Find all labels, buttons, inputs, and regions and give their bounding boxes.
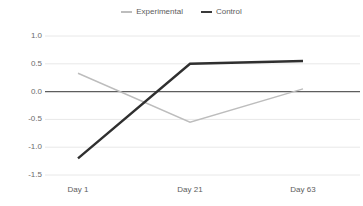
line-chart: Experimental Control 1.0 0.5 0.0 -0.5 -1… [0, 0, 363, 206]
x-axis-tick: Day 63 [290, 186, 315, 194]
x-axis: Day 1 Day 21 Day 63 [0, 0, 363, 206]
x-axis-tick: Day 1 [68, 186, 89, 194]
x-axis-tick: Day 21 [177, 186, 202, 194]
